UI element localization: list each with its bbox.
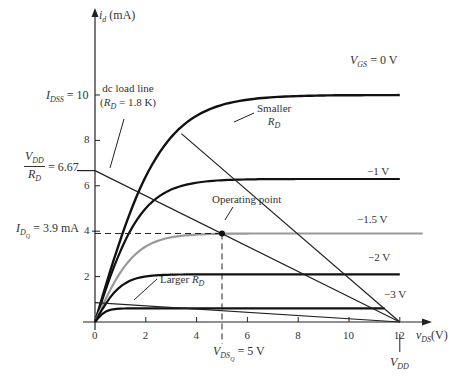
curve--2-v (95, 274, 400, 322)
x-tick-label: 8 (295, 330, 301, 341)
vdsq-label: VDSQ = 5 V (213, 345, 265, 362)
smaller-rd-load-line (181, 134, 399, 322)
larger-rd-leader (134, 279, 157, 300)
curve-v-gs-0-v (95, 95, 400, 322)
vgs-minus3v-label: −3 V (384, 289, 406, 300)
vdd-over-rd-fraction: VDD RD (24, 150, 45, 183)
vdd-label: VDD (390, 356, 409, 371)
operating-point-label: Operating point (212, 194, 281, 205)
smaller-rd-label: Smaller RD (257, 103, 291, 130)
x-tick-label: 12 (394, 330, 405, 341)
y-axis-arrow-icon (92, 8, 99, 17)
y-tick-label: 2 (84, 271, 90, 282)
larger-rd-label: Larger RD (160, 274, 204, 288)
smaller-rd-leader (234, 113, 254, 122)
curve--3-v (95, 308, 385, 322)
vgs-minus1p5v-label: −1.5 V (357, 214, 387, 225)
vdd-over-rd-label: VDD RD = 6.67 (24, 150, 79, 183)
x-tick-label: 10 (343, 330, 354, 341)
idq-label: IDQ = 3.9 mA (16, 222, 79, 239)
y-ticks (92, 95, 100, 277)
x-tick-label: 4 (194, 330, 200, 341)
vgs-0v-label: VGS = 0 V (350, 54, 397, 69)
x-tick-label: 2 (143, 330, 149, 341)
y-axis-label: id (mA) (99, 9, 135, 24)
x-tick-label: 0 (92, 330, 98, 341)
vgs-minus2v-label: −2 V (368, 252, 390, 263)
x-axis-arrow-icon (422, 319, 432, 326)
operating-point-leader (225, 207, 233, 220)
dc-load-line-leader (110, 119, 124, 168)
y-tick-label: 6 (84, 180, 90, 191)
vgs-minus1v-label: −1 V (367, 166, 389, 177)
idss-label: IDSS = 10 (46, 89, 89, 104)
x-tick-label: 6 (244, 330, 250, 341)
operating-point-marker (219, 230, 225, 236)
x-axis-label: vDS(V) (416, 329, 448, 344)
dc-load-line-label: dc load line (RD = 1.8 K) (100, 83, 156, 111)
y-tick-label: 8 (84, 134, 90, 145)
y-tick-label: 4 (84, 225, 90, 236)
